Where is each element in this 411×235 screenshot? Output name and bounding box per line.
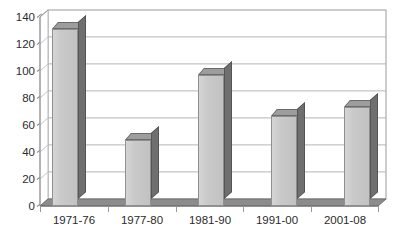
bar-side-face	[151, 126, 159, 199]
x-tick-label-2001-08: 2001-08	[311, 214, 379, 226]
x-tick-mark	[108, 206, 109, 212]
bar-1977-80[interactable]	[125, 140, 151, 206]
x-tick-label-1977-80: 1977-80	[108, 214, 176, 226]
bar-1971-76[interactable]	[52, 29, 78, 206]
bar-side-face	[297, 102, 305, 199]
x-tick-mark	[311, 206, 312, 212]
bar-side-face	[78, 15, 86, 199]
bar-2001-08[interactable]	[344, 107, 370, 206]
bar-side-face	[370, 93, 378, 199]
bar-front-face	[271, 116, 297, 206]
x-tick-label-1981-90: 1981-90	[176, 214, 244, 226]
bars-group	[0, 0, 411, 235]
bar-front-face	[125, 140, 151, 206]
bar-front-face	[198, 75, 224, 206]
x-tick-mark	[243, 206, 244, 212]
x-tick-mark	[40, 206, 41, 212]
bar-front-face	[344, 107, 370, 206]
x-tick-mark	[176, 206, 177, 212]
bar-1981-90[interactable]	[198, 75, 224, 206]
x-tick-mark	[378, 206, 379, 212]
bar-side-face	[224, 61, 232, 199]
bar-chart: 140 120 100 80 60 40 20 0	[0, 0, 411, 235]
bar-front-face	[52, 29, 78, 206]
bar-1991-00[interactable]	[271, 116, 297, 206]
x-tick-label-1991-00: 1991-00	[243, 214, 311, 226]
x-tick-label-1971-76: 1971-76	[40, 214, 108, 226]
